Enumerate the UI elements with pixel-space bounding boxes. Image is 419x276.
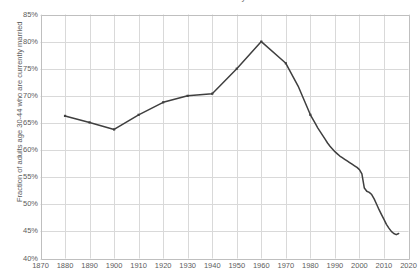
axis-lines (42, 16, 410, 260)
data-point-marker (162, 101, 164, 103)
data-point-marker (285, 62, 287, 64)
data-point-marker (64, 115, 66, 117)
data-point-marker (138, 114, 140, 116)
data-point-marker (113, 128, 115, 130)
data-point-marker (260, 41, 262, 43)
data-point-marker (187, 95, 189, 97)
data-point-marker (236, 68, 238, 70)
data-point-marker (309, 114, 311, 116)
plot-area (0, 0, 419, 276)
data-point-marker (211, 93, 213, 95)
data-point-marker (88, 121, 90, 123)
married-fraction-line-chart: Fraction of adults currently married Fra… (0, 0, 419, 276)
grid-lines (41, 15, 410, 260)
data-line-series-0 (65, 42, 399, 235)
